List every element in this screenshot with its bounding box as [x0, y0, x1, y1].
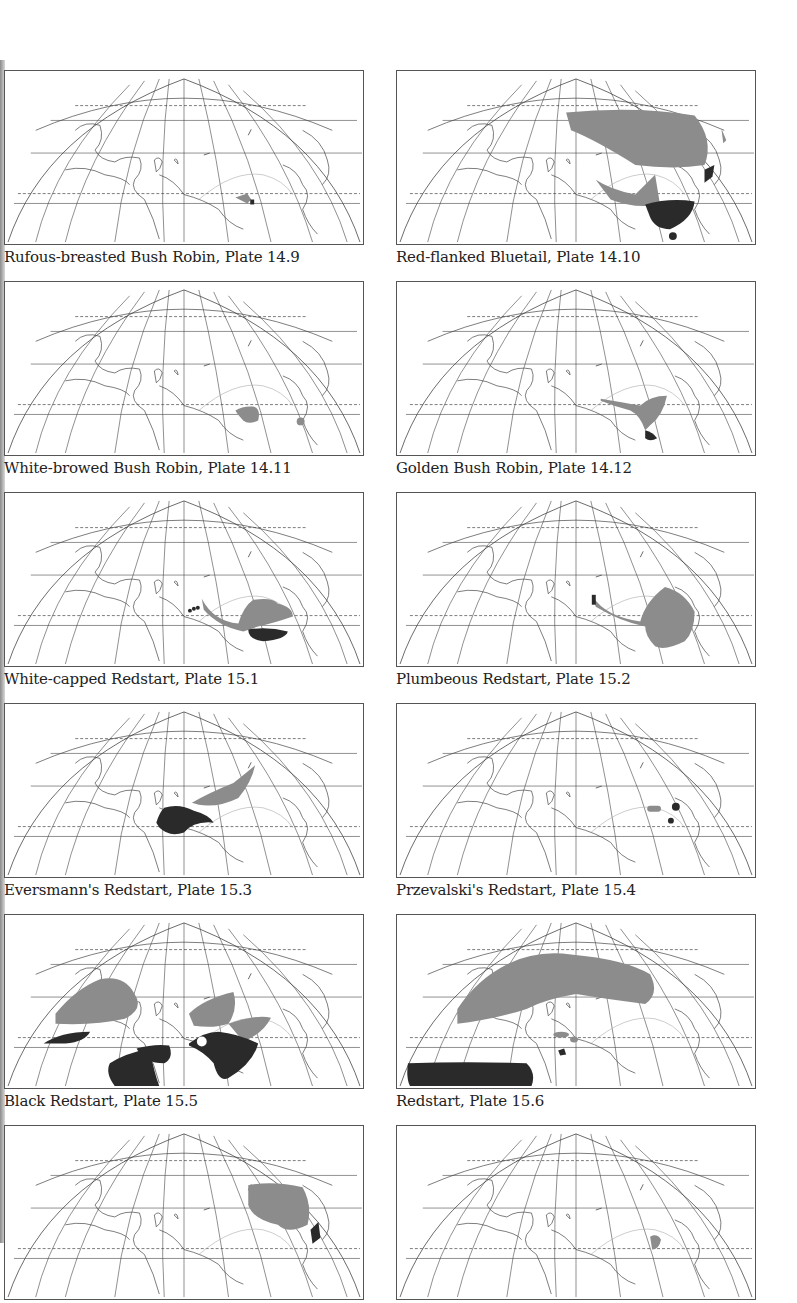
- range-map: [396, 1125, 756, 1300]
- range-map: [396, 492, 756, 667]
- map-caption: Black Redstart, Plate 15.5: [4, 1092, 366, 1110]
- range-map-card: White-browed Bush Robin, Plate 14.11: [4, 281, 366, 477]
- range-map: [4, 703, 364, 878]
- range-map: [4, 492, 364, 667]
- range-map: [396, 703, 756, 878]
- map-caption: Eversmann's Redstart, Plate 15.3: [4, 881, 366, 899]
- range-map-card: White-capped Redstart, Plate 15.1: [4, 492, 366, 688]
- range-map: [4, 914, 364, 1089]
- map-caption: White-capped Redstart, Plate 15.1: [4, 670, 366, 688]
- range-map-card: Eversmann's Redstart, Plate 15.3: [4, 703, 366, 899]
- map-caption: Red-flanked Bluetail, Plate 14.10: [396, 248, 758, 266]
- range-map-card: Red-flanked Bluetail, Plate 14.10: [396, 70, 758, 266]
- range-map: [4, 281, 364, 456]
- map-caption: Przevalski's Redstart, Plate 15.4: [396, 881, 758, 899]
- range-map: [4, 1125, 364, 1300]
- range-map-card: Black Redstart, Plate 15.5: [4, 914, 366, 1110]
- range-map: [4, 70, 364, 245]
- map-caption: Golden Bush Robin, Plate 14.12: [396, 459, 758, 477]
- map-caption: Plumbeous Redstart, Plate 15.2: [396, 670, 758, 688]
- map-caption: Rufous-breasted Bush Robin, Plate 14.9: [4, 248, 366, 266]
- range-map: [396, 914, 756, 1089]
- range-map: [396, 281, 756, 456]
- range-map-card: Plumbeous Redstart, Plate 15.2: [396, 492, 758, 688]
- range-map-card: Redstart, Plate 15.6: [396, 914, 758, 1110]
- map-caption: White-browed Bush Robin, Plate 14.11: [4, 459, 366, 477]
- range-map-card: Przevalski's Redstart, Plate 15.4: [396, 703, 758, 899]
- range-map-card: [396, 1125, 758, 1303]
- range-map-card: Golden Bush Robin, Plate 14.12: [396, 281, 758, 477]
- range-map: [396, 70, 756, 245]
- map-caption: Redstart, Plate 15.6: [396, 1092, 758, 1110]
- range-map-card: [4, 1125, 366, 1303]
- range-map-card: Rufous-breasted Bush Robin, Plate 14.9: [4, 70, 366, 266]
